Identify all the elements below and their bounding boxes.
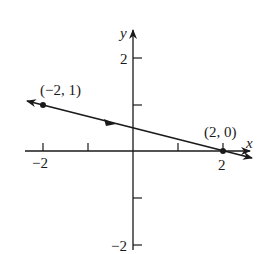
point-label-neg2-1: (−2, 1) <box>40 82 81 99</box>
y-tick-label-neg2: −2 <box>111 238 127 254</box>
point-2-0 <box>220 148 226 154</box>
points: (−2, 1) (2, 0) <box>40 82 237 154</box>
x-axis-label: x <box>245 135 253 151</box>
x-axis: −2 2 x <box>25 135 253 173</box>
y-axis: 2 −2 y <box>111 25 142 254</box>
point-label-2-0: (2, 0) <box>204 124 237 141</box>
point-neg2-1 <box>40 102 46 108</box>
x-tick-label-neg2: −2 <box>32 155 48 171</box>
y-axis-label: y <box>118 25 127 41</box>
coordinate-plot: −2 2 x 2 −2 y (−2, 1) (2, 0) <box>0 0 270 254</box>
y-tick-label-2: 2 <box>120 51 128 67</box>
x-tick-label-2: 2 <box>218 157 226 173</box>
